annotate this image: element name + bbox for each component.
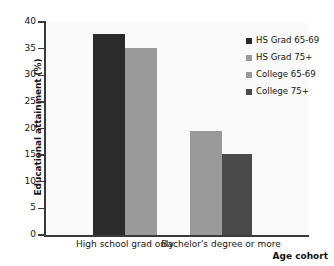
y-axis-ticks: 0510152025303540 [0, 0, 45, 266]
y-tick-mark [38, 208, 45, 209]
x-axis-title: Age cohort [273, 251, 329, 261]
y-tick-mark [38, 75, 45, 76]
y-tick-label: 30 [6, 70, 36, 79]
bar [222, 154, 252, 235]
legend-label: College 75+ [256, 87, 309, 96]
y-tick-label: 25 [6, 97, 36, 106]
x-category-label: Bachelor's degree or more [161, 239, 280, 249]
legend-item[interactable]: College 75+ [246, 85, 319, 98]
bar [190, 131, 222, 235]
bar [93, 34, 125, 235]
y-tick-mark [38, 101, 45, 102]
legend-swatch-icon [246, 72, 252, 78]
y-tick-mark [38, 181, 45, 182]
y-tick-mark [38, 21, 45, 22]
y-tick-mark [38, 128, 45, 129]
y-tick-label: 0 [6, 230, 36, 239]
legend-swatch-icon [246, 55, 252, 61]
x-axis-line [44, 235, 309, 237]
legend-item[interactable]: College 65-69 [246, 68, 319, 81]
legend-item[interactable]: HS Grad 65-69 [246, 34, 319, 47]
bar-chart: Educational attainment (%) 0510152025303… [0, 0, 334, 266]
x-category-label: High school grad only [76, 239, 174, 249]
y-tick-label: 20 [6, 124, 36, 133]
legend-label: HS Grad 65-69 [256, 36, 319, 45]
legend-label: College 65-69 [256, 70, 316, 79]
legend: HS Grad 65-69HS Grad 75+College 65-69Col… [246, 34, 319, 102]
y-tick-label: 35 [6, 44, 36, 53]
y-tick-mark [38, 48, 45, 49]
y-tick-mark [38, 234, 45, 235]
legend-label: HS Grad 75+ [256, 53, 312, 62]
y-tick-label: 5 [6, 203, 36, 212]
y-tick-label: 40 [6, 17, 36, 26]
y-tick-label: 15 [6, 150, 36, 159]
y-tick-mark [38, 154, 45, 155]
legend-swatch-icon [246, 89, 252, 95]
legend-item[interactable]: HS Grad 75+ [246, 51, 319, 64]
bar [125, 48, 157, 235]
legend-swatch-icon [246, 38, 252, 44]
y-tick-label: 10 [6, 177, 36, 186]
